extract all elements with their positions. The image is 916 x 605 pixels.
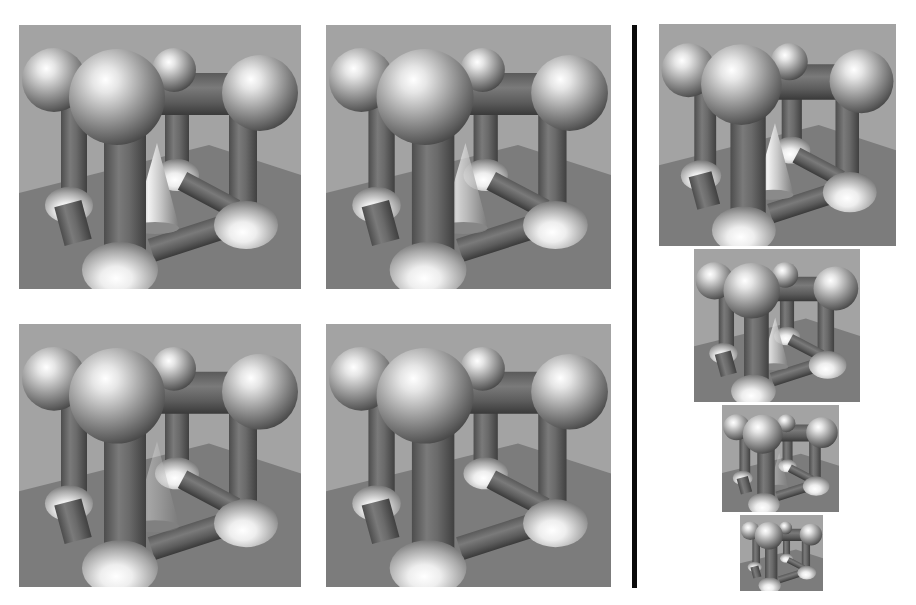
render-panel-res-3 [722, 405, 839, 512]
render-panel-top-right [326, 25, 611, 289]
render-panel-res-4 [740, 515, 823, 591]
render-panel-res-2 [694, 249, 860, 402]
render-panel-res-1 [659, 24, 896, 246]
render-panel-bottom-left [19, 324, 301, 587]
render-panel-top-left [19, 25, 301, 289]
vertical-divider [632, 25, 637, 588]
render-panel-bottom-right [326, 324, 611, 587]
